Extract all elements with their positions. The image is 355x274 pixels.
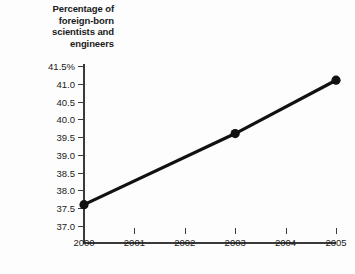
x-tick-label: 2005 — [325, 237, 346, 248]
y-tick-label: 41.5% — [48, 61, 75, 72]
y-tick-label: 41.0 — [57, 78, 76, 89]
x-tick-mark — [235, 228, 236, 234]
x-tick-mark — [84, 228, 85, 234]
x-tick-label: 2000 — [73, 237, 94, 248]
x-tick-mark — [185, 228, 186, 234]
data-point — [331, 76, 340, 85]
x-tick-mark — [134, 228, 135, 234]
x-tick-label: 2002 — [174, 237, 195, 248]
chart-title-line: foreign-born — [6, 15, 114, 27]
y-tick-label: 39.5 — [57, 132, 76, 143]
y-tick-label: 38.0 — [57, 185, 76, 196]
data-series — [84, 66, 336, 226]
chart-title-line: Percentage of — [6, 3, 114, 15]
series-line — [84, 80, 336, 204]
y-tick-label: 40.5 — [57, 96, 76, 107]
y-tick-label: 40.0 — [57, 114, 76, 125]
x-axis-line — [83, 242, 336, 244]
chart-title-line: scientists and — [6, 26, 114, 38]
x-tick-mark — [336, 228, 337, 234]
plot-area: 41.5%41.040.540.039.539.038.538.037.537.… — [84, 66, 336, 226]
chart-container: Percentage of foreign-born scientists an… — [0, 0, 355, 274]
chart-title-line: engineers — [6, 38, 114, 50]
y-tick-label: 38.5 — [57, 167, 76, 178]
chart-title: Percentage of foreign-born scientists an… — [6, 3, 114, 49]
x-tick-mark — [286, 228, 287, 234]
x-tick-label: 2003 — [225, 237, 246, 248]
data-point — [231, 129, 240, 138]
x-tick-label: 2004 — [275, 237, 296, 248]
y-tick-label: 37.5 — [57, 203, 76, 214]
y-tick-mark — [78, 226, 84, 227]
y-tick-label: 37.0 — [57, 221, 76, 232]
y-tick-label: 39.0 — [57, 149, 76, 160]
data-point — [79, 200, 88, 209]
x-tick-label: 2001 — [124, 237, 145, 248]
